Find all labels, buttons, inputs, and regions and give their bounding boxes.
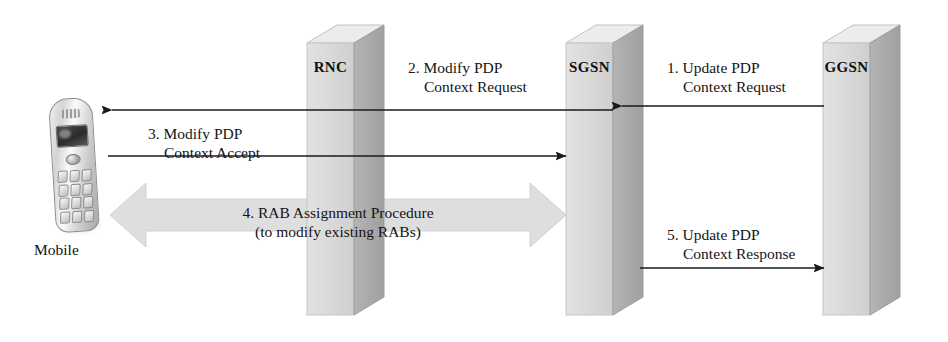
message-4-line-1: 4. RAB Assignment Procedure: [152, 203, 524, 222]
message-5-line-1: 5. Update PDP: [667, 225, 795, 244]
message-2-line-2: Context Request: [408, 77, 527, 96]
message-4-line-2: (to modify existing RABs): [152, 222, 524, 241]
message-1-line-2: Context Request: [667, 77, 786, 96]
node-label-ggsn: GGSN: [820, 59, 873, 76]
message-3-line-1: 3. Modify PDP: [148, 124, 260, 143]
message-label-5: 5. Update PDP Context Response: [667, 225, 795, 263]
node-label-mobile: Mobile: [34, 241, 79, 259]
message-2-line-1: 2. Modify PDP: [408, 58, 527, 77]
network-sequence-diagram: RNC SGSN GGSN Mobile 1. Update PDP Conte…: [0, 0, 948, 342]
message-label-3: 3. Modify PDP Context Accept: [148, 124, 260, 162]
node-label-rnc: RNC: [307, 59, 354, 76]
message-label-1: 1. Update PDP Context Request: [667, 58, 786, 96]
message-3-line-2: Context Accept: [148, 143, 260, 162]
message-label-2: 2. Modify PDP Context Request: [408, 58, 527, 96]
message-1-line-1: 1. Update PDP: [667, 58, 786, 77]
message-label-4: 4. RAB Assignment Procedure (to modify e…: [152, 203, 524, 241]
message-5-line-2: Context Response: [667, 244, 795, 263]
node-label-sgsn: SGSN: [563, 59, 616, 76]
diagram-text-layer: RNC SGSN GGSN Mobile 1. Update PDP Conte…: [0, 0, 948, 342]
